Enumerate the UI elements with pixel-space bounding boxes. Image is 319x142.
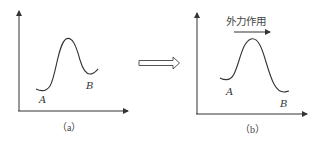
point-a-label-a: A [38,94,46,105]
point-a-label-b: A [225,86,233,97]
panel-a: A B （a） [18,11,128,133]
energy-curve-b [220,39,289,92]
point-b-label-a: B [85,80,93,91]
transition-arrow-icon [139,57,180,69]
panel-b: 外力作用 A B （b） [196,13,307,135]
caption-a: （a） [57,122,81,133]
point-b-label-b: B [279,98,287,109]
external-force-label: 外力作用 [226,15,266,27]
figure-canvas: A B （a） 外力作用 A B （b） [0,0,319,142]
caption-b: （b） [240,124,265,135]
